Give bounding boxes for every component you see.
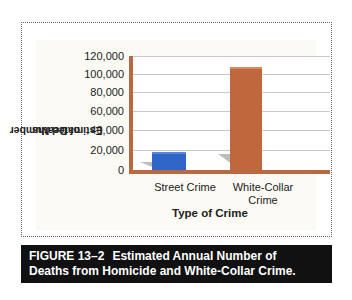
y-axis-label: Estimated Numberof Deaths (46, 70, 66, 190)
y-tick: 80,000 (90, 86, 124, 98)
plot-area (132, 56, 330, 170)
y-tick: 40,000 (90, 124, 124, 136)
caption-line2: Deaths from Homicide and White-Collar Cr… (29, 264, 296, 278)
x-axis-label: Type of Crime (172, 207, 248, 219)
x-axis-floor (129, 170, 330, 174)
y-tick: 100,000 (84, 68, 124, 80)
y-tick: 0 (118, 164, 124, 176)
x-category-street-crime: Street Crime (150, 181, 220, 194)
y-tick: 20,000 (90, 144, 124, 156)
y-tick: 120,000 (84, 50, 124, 62)
gridline (132, 56, 330, 57)
figure-caption: FIGURE 13–2Estimated Annual Number of De… (21, 245, 332, 283)
y-tick: 60,000 (90, 105, 124, 117)
bar-street-crime (152, 152, 186, 170)
figure-number: FIGURE 13–2 (29, 249, 104, 263)
bar-white-collar-crime (230, 67, 262, 170)
x-category-white-collar-crime: White-Collar Crime (228, 181, 298, 207)
y-axis-wall (129, 56, 133, 174)
caption-line1: Estimated Annual Number of (112, 249, 276, 263)
